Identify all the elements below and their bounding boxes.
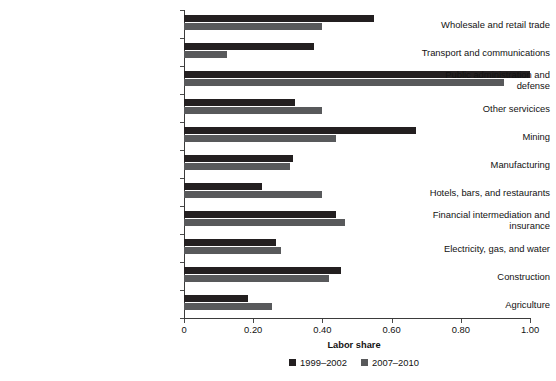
x-axis-tick-label: 0.60 bbox=[382, 324, 400, 335]
bar-series-1 bbox=[184, 295, 248, 302]
bar-series-2 bbox=[184, 191, 322, 198]
bar-series-2 bbox=[184, 275, 329, 282]
bar-series-2 bbox=[184, 135, 336, 142]
x-axis-tick bbox=[322, 319, 323, 323]
category-label: Other servicices bbox=[378, 103, 556, 114]
category-label: Electricity, gas, and water bbox=[378, 243, 556, 254]
category-label: Wholesale and retail trade bbox=[378, 19, 556, 30]
bar-series-2 bbox=[184, 219, 345, 226]
bar-series-1 bbox=[184, 155, 293, 162]
legend: 1999–2002 2007–2010 bbox=[0, 357, 556, 368]
legend-swatch-1999-2002 bbox=[289, 359, 296, 366]
x-axis-tick-label: 0.40 bbox=[313, 324, 331, 335]
y-axis-tick bbox=[180, 94, 184, 95]
category-label: Manufacturing bbox=[378, 159, 556, 170]
category-label: Agriculture bbox=[378, 299, 556, 310]
y-axis-tick bbox=[180, 290, 184, 291]
x-axis-tick-label: 0.80 bbox=[452, 324, 470, 335]
legend-label-1999-2002: 1999–2002 bbox=[300, 357, 347, 368]
category-label: Financial intermediation and insurance bbox=[378, 209, 556, 231]
bar-series-2 bbox=[184, 51, 227, 58]
y-axis-tick bbox=[180, 234, 184, 235]
y-axis-tick bbox=[180, 178, 184, 179]
bar-series-2 bbox=[184, 107, 322, 114]
bar-series-1 bbox=[184, 211, 336, 218]
y-axis-tick bbox=[180, 150, 184, 151]
y-axis-tick bbox=[180, 38, 184, 39]
category-label: Mining bbox=[378, 131, 556, 142]
x-axis-title-text: Labor share bbox=[327, 340, 380, 350]
x-axis-tick bbox=[184, 319, 185, 323]
bar-series-1 bbox=[184, 239, 276, 246]
category-label: Transport and communications bbox=[378, 47, 556, 58]
category-label: Construction bbox=[378, 271, 556, 282]
x-axis-tick-label: 0 bbox=[181, 324, 186, 335]
category-label: Public administration and defense bbox=[378, 69, 556, 91]
x-axis-tick bbox=[392, 319, 393, 323]
category-label: Hotels, bars, and restaurants bbox=[378, 187, 556, 198]
bar-series-2 bbox=[184, 23, 322, 30]
legend-item-1999-2002: 1999–2002 bbox=[289, 357, 347, 368]
bar-series-1 bbox=[184, 183, 262, 190]
bar-series-1 bbox=[184, 43, 314, 50]
y-axis-tick bbox=[180, 122, 184, 123]
x-axis-tick-label: 0.20 bbox=[244, 324, 262, 335]
bar-series-1 bbox=[184, 267, 341, 274]
x-axis-tick bbox=[530, 319, 531, 323]
legend-item-2007-2010: 2007–2010 bbox=[361, 357, 419, 368]
y-axis-tick bbox=[180, 66, 184, 67]
legend-label-2007-2010: 2007–2010 bbox=[372, 357, 419, 368]
bar-series-2 bbox=[184, 247, 281, 254]
x-axis-tick bbox=[253, 319, 254, 323]
x-axis-tick bbox=[461, 319, 462, 323]
bar-chart: Wholesale and retail tradeTransport and … bbox=[0, 0, 556, 381]
legend-swatch-2007-2010 bbox=[361, 359, 368, 366]
x-axis-line bbox=[184, 318, 531, 319]
x-axis-tick-label: 1.00 bbox=[521, 324, 539, 335]
y-axis-tick bbox=[180, 206, 184, 207]
bar-series-1 bbox=[184, 99, 295, 106]
bar-series-1 bbox=[184, 15, 374, 22]
bar-series-2 bbox=[184, 303, 272, 310]
bar-series-2 bbox=[184, 163, 290, 170]
y-axis-tick bbox=[180, 262, 184, 263]
x-axis-title: Labor share bbox=[0, 340, 556, 350]
y-axis-tick bbox=[180, 10, 184, 11]
